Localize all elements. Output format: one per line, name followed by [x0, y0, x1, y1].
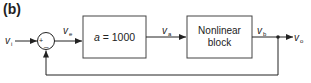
input-label: v i	[5, 35, 12, 47]
plus-sign: +	[39, 37, 43, 44]
error-label: v e	[63, 25, 73, 37]
svg-text:e: e	[69, 31, 73, 37]
block-output-label: v b	[257, 25, 267, 37]
nonlinear-block-line2: block	[208, 37, 232, 48]
svg-text:a: a	[168, 31, 172, 37]
output-label: v o	[294, 32, 304, 44]
amplifier-gain-label: a = 1000	[94, 31, 135, 43]
svg-text:b: b	[263, 31, 267, 37]
amp-output-label: v a	[162, 25, 172, 37]
svg-text:o: o	[300, 38, 304, 44]
block-diagram: (b) v i + – v e a = 1000 v a Nonlinear b…	[0, 0, 311, 83]
minus-sign: –	[44, 42, 49, 51]
svg-text:i: i	[11, 41, 12, 47]
nonlinear-block-line1: Nonlinear	[198, 25, 241, 36]
panel-label: (b)	[3, 1, 21, 17]
